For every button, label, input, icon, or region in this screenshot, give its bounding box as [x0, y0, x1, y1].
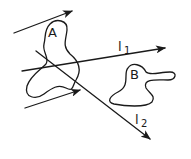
line-l2-label: l	[135, 112, 139, 127]
diagram-canvas: A B l 1 l 2	[0, 0, 191, 159]
line-l1-label: l	[118, 39, 122, 54]
bottom-arrow	[25, 90, 80, 108]
region-a-label: A	[48, 25, 57, 40]
region-b-label: B	[130, 67, 139, 82]
line-l2-subscript: 2	[141, 118, 147, 129]
line-l1-subscript: 1	[124, 45, 130, 56]
region-b-outline	[110, 65, 175, 106]
